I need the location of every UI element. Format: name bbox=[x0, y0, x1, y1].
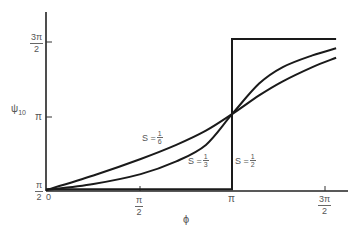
y-tick-label-pi: π bbox=[35, 112, 42, 122]
plot-area bbox=[0, 0, 360, 233]
x-tick-label-0: 0 bbox=[46, 193, 51, 202]
y-tick-label-pi-2: π 2 bbox=[35, 181, 43, 202]
series-line-s-1-3 bbox=[46, 48, 336, 190]
curve-label-s-1-3: S = 13 bbox=[188, 153, 209, 168]
x-tick-label-pi-2: π 2 bbox=[135, 196, 143, 217]
y-tick-label-3pi-2: 3π 2 bbox=[30, 33, 43, 54]
x-tick-label-pi: π bbox=[228, 194, 235, 204]
curve-label-s-1-6: S = 16 bbox=[142, 130, 163, 145]
series-line-s-1-6 bbox=[46, 58, 336, 190]
x-axis-label: ϕ bbox=[183, 214, 189, 225]
curve-label-s-1-2: S = 12 bbox=[235, 153, 256, 168]
x-tick-label-3pi-2: 3π 2 bbox=[318, 195, 331, 216]
y-axis-label: ψ10 bbox=[11, 104, 26, 116]
